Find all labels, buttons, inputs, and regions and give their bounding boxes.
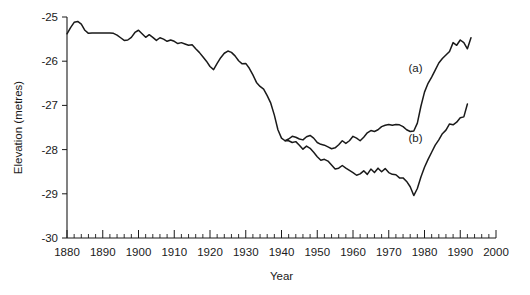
chart-canvas: -25-26-27-28-29-301880189019001910192019…: [0, 0, 530, 295]
y-tick-label: -27: [41, 99, 58, 111]
x-tick-label: 1940: [269, 246, 295, 258]
series-annotation-a: (a): [409, 62, 423, 74]
y-axis-title: Elevation (metres): [12, 81, 24, 174]
x-tick-label: 1880: [54, 246, 80, 258]
y-tick-label: -29: [41, 188, 58, 200]
series-line-a: [67, 21, 471, 148]
y-tick-label: -26: [41, 55, 58, 67]
x-tick-label: 1920: [197, 246, 223, 258]
x-tick-label: 1970: [376, 246, 402, 258]
x-tick-label: 2000: [483, 246, 509, 258]
elevation-time-series-figure: -25-26-27-28-29-301880189019001910192019…: [0, 0, 530, 295]
x-axis-title: Year: [270, 270, 293, 282]
x-tick-label: 1930: [233, 246, 259, 258]
x-tick-label: 1890: [90, 246, 116, 258]
x-tick-label: 1910: [161, 246, 187, 258]
x-tick-label: 1980: [412, 246, 438, 258]
x-tick-label: 1960: [340, 246, 366, 258]
series-annotation-b: (b): [409, 132, 423, 144]
axes: [62, 17, 496, 238]
y-tick-label: -30: [41, 232, 58, 244]
x-tick-label: 1900: [126, 246, 152, 258]
y-tick-label: -28: [41, 144, 58, 156]
series-line-b: [285, 104, 467, 196]
x-tick-label: 1990: [447, 246, 473, 258]
data-series: [67, 21, 471, 195]
y-tick-label: -25: [41, 11, 58, 23]
x-tick-label: 1950: [304, 246, 330, 258]
